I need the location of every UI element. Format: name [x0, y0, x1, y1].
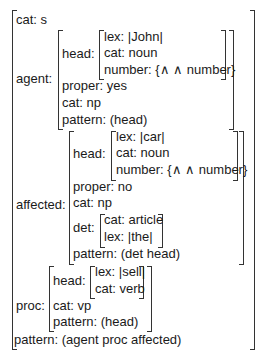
affected-bracket-right [239, 131, 244, 265]
proc-head-lex: lex: |sell| [95, 265, 145, 279]
affected-det-label: det: [73, 221, 95, 235]
affected-head-cat: cat: noun [116, 146, 170, 160]
agent-cat: cat: np [62, 96, 101, 110]
affected-head-label: head: [73, 147, 106, 161]
proc-cat: cat: vp [53, 299, 91, 313]
det-lex: lex: |the| [104, 230, 153, 244]
agent-bracket-right [229, 30, 234, 130]
affected-head-number: number: {∧ ∧ number} [116, 163, 247, 177]
affected-cat: cat: np [73, 196, 112, 210]
proc-head-cat: cat: verb [95, 282, 145, 296]
proc-head-label: head: [53, 274, 86, 288]
outer-bracket-right [250, 10, 255, 350]
agent-head-number: number: {∧ ∧ number} [104, 63, 235, 77]
agent-pattern: pattern: (head) [62, 113, 147, 127]
affected-label: affected: [16, 198, 66, 212]
proc-label: proc: [16, 299, 45, 313]
affected-pattern: pattern: (det head) [73, 247, 180, 261]
top-pattern: pattern: (agent proc affected) [14, 333, 181, 347]
agent-head-label: head: [62, 47, 95, 61]
agent-head-cat: cat: noun [104, 46, 158, 60]
agent-head-lex: lex: |John| [104, 30, 163, 44]
proc-bracket-right [147, 266, 152, 332]
agent-proper: proper: yes [62, 79, 127, 93]
proc-pattern: pattern: (head) [53, 315, 138, 329]
cat-s: cat: s [16, 13, 47, 27]
affected-proper: proper: no [73, 180, 132, 194]
affected-head-lex: lex: |car| [116, 130, 165, 144]
det-cat: cat: article [104, 213, 163, 227]
agent-label: agent: [16, 72, 52, 86]
